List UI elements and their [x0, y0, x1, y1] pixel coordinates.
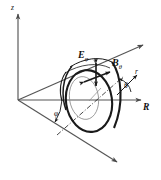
field-symbol-B: B [112, 57, 119, 68]
physics-diagram-figure: z R r φ θ Eφ Bθ [0, 0, 161, 180]
diagram-canvas [0, 0, 161, 180]
field-subscript-phi: φ [85, 55, 89, 62]
axis-label-R: R [143, 103, 149, 113]
axis-label-r: r [135, 68, 138, 76]
field-subscript-theta: θ [119, 63, 122, 70]
minor-radius-tick [89, 88, 101, 101]
field-label-E-phi: Eφ [78, 50, 88, 63]
poloidal-field-line-front [112, 62, 121, 128]
axis-label-z: z [11, 4, 14, 12]
field-label-B-theta: Bθ [112, 58, 122, 71]
field-symbol-E: E [78, 49, 85, 60]
angle-label-phi: φ [54, 110, 58, 118]
angle-label-theta: θ [124, 82, 128, 90]
